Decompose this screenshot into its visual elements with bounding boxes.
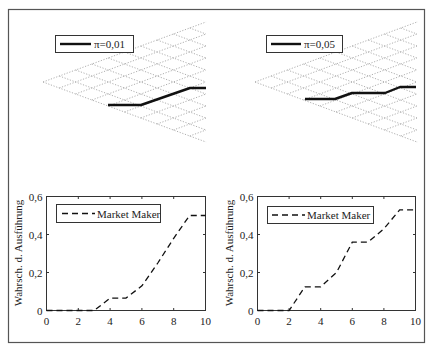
legend: Market Maker [268, 207, 374, 224]
y-tick-label: 0 [248, 305, 254, 317]
y-tick-label: 0,6 [29, 191, 43, 203]
legend-label: Market Maker [307, 209, 371, 221]
legend-label: Market Maker [97, 208, 161, 220]
x-tick-label: 6 [350, 315, 356, 327]
legend: π=0,01 [56, 36, 134, 53]
y-tick-label: 0,6 [240, 191, 254, 203]
y-tick-label: 0,2 [29, 267, 43, 279]
x-tick-label: 10 [410, 315, 422, 327]
x-tick-label: 2 [76, 315, 82, 327]
legend: Market Maker [57, 205, 161, 223]
x-tick-label: 8 [381, 315, 387, 327]
x-tick-label: 0 [255, 315, 261, 327]
x-tick-label: 0 [44, 315, 50, 327]
x-tick-label: 4 [107, 315, 113, 327]
x-tick-label: 2 [286, 315, 292, 327]
figure: π=0,01 π=0,05 024681000,20,40,6 Wahrsch.… [0, 0, 431, 349]
x-tick-label: 4 [318, 315, 324, 327]
x-tick-label: 8 [171, 315, 177, 327]
legend: π=0,05 [267, 36, 343, 53]
y-axis-label: Wahrsch. d. Ausführung [223, 199, 235, 306]
y-tick-label: 0,2 [240, 267, 254, 279]
legend-label: π=0,01 [94, 38, 125, 50]
x-tick-label: 6 [139, 315, 145, 327]
legend-label: π=0,05 [304, 38, 336, 50]
y-tick-label: 0,4 [29, 229, 43, 241]
y-axis-label: Wahrsch. d. Ausführung [12, 199, 24, 306]
y-tick-label: 0,4 [240, 229, 254, 241]
figure-border [9, 10, 425, 343]
y-tick-label: 0 [37, 305, 43, 317]
x-tick-label: 10 [200, 315, 212, 327]
